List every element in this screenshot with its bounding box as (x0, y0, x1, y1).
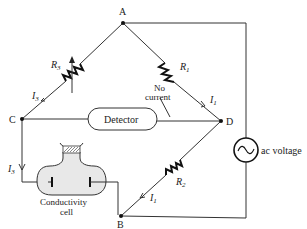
i3-top-label: I3 (31, 90, 39, 103)
resistor-r3 (63, 64, 83, 81)
cell-label-line1: Conductivity (40, 197, 87, 207)
i1-top-label: I1 (209, 94, 217, 107)
conductivity-cell (37, 152, 106, 195)
node-a-dot (121, 21, 125, 25)
i1-bottom-label: I1 (149, 192, 157, 205)
current-arrow-i1-bottom (140, 193, 145, 198)
i3-left-label: I3 (7, 163, 15, 176)
resistor-r1 (159, 63, 174, 82)
no-current-line2: current (145, 92, 171, 102)
node-c-label: C (9, 114, 16, 125)
r3-label: R3 (50, 59, 61, 72)
branch-a-d (123, 23, 221, 121)
detector-label: Detector (104, 114, 139, 125)
branch-a-c (22, 23, 123, 119)
node-a-label: A (119, 6, 127, 17)
node-c-dot (20, 117, 24, 121)
r2-label: R2 (175, 176, 186, 189)
branch-d-b (121, 121, 221, 216)
node-d-dot (219, 119, 223, 123)
node-d-label: D (226, 116, 233, 127)
current-arrow-i1-top (201, 101, 205, 107)
node-b-dot (119, 214, 123, 218)
circuit-diagram: A C D B R3 R1 R2 I3 I3 I1 I1 No current … (0, 0, 307, 229)
cell-label-line2: cell (60, 207, 73, 217)
resistor-r2 (166, 160, 182, 175)
ac-voltage-label: ac voltage (261, 145, 302, 156)
r1-label: R1 (179, 61, 190, 74)
node-b-label: B (117, 219, 124, 229)
